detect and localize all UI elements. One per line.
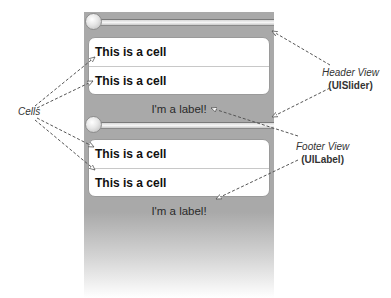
slider-thumb[interactable] <box>85 116 102 133</box>
slider-track[interactable] <box>88 122 274 129</box>
annotation-cells: Cells <box>18 105 40 118</box>
slider-track[interactable] <box>88 19 274 26</box>
section-2-group: This is a cell This is a cell <box>88 139 270 197</box>
annotation-title: Footer View <box>296 140 349 153</box>
header-view-slider-1[interactable] <box>84 12 274 32</box>
slider-thumb[interactable] <box>85 13 102 30</box>
annotation-subtitle: (UILabel) <box>296 153 349 166</box>
header-view-slider-2[interactable] <box>84 115 274 135</box>
table-cell[interactable]: This is a cell <box>89 168 269 197</box>
annotation-subtitle: (UISlider) <box>322 79 379 92</box>
annotation-title: Header View <box>322 66 379 79</box>
footer-view-label-2: I'm a label! <box>84 205 274 217</box>
arrow-header-2 <box>272 88 330 117</box>
annotation-footer-view: Footer View (UILabel) <box>296 140 349 166</box>
table-cell[interactable]: This is a cell <box>89 66 269 95</box>
section-1-group: This is a cell This is a cell <box>88 37 270 95</box>
table-view: This is a cell This is a cell I'm a labe… <box>84 12 274 298</box>
arrow-header-1 <box>272 31 330 65</box>
footer-view-label-1: I'm a label! <box>84 103 274 115</box>
table-cell[interactable]: This is a cell <box>89 140 269 168</box>
table-cell[interactable]: This is a cell <box>89 38 269 66</box>
annotation-title: Cells <box>18 105 40 118</box>
annotation-header-view: Header View (UISlider) <box>322 66 379 92</box>
